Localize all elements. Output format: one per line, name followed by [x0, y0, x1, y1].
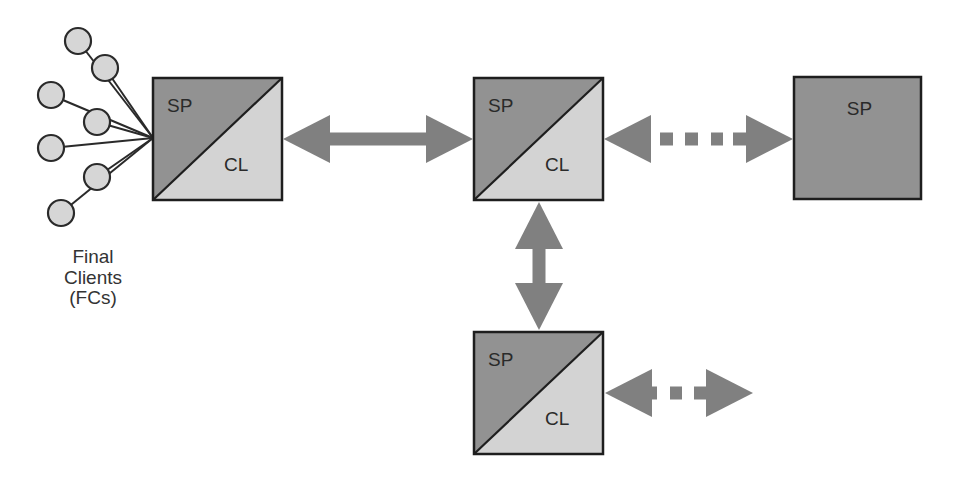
sp-label: SP — [488, 95, 513, 116]
cl-label: CL — [545, 154, 569, 175]
arrowhead-start — [604, 115, 651, 163]
final-client-node — [84, 109, 110, 135]
arrow-dash — [694, 387, 707, 400]
arrow-dash — [733, 133, 747, 146]
arrow-dash — [685, 133, 698, 146]
final-client-node — [48, 200, 74, 226]
arrow-dash — [651, 387, 657, 400]
arrow-shaft — [329, 133, 427, 146]
network-diagram: SPCLSPCLSPSPCL — [0, 0, 957, 478]
arrowhead-end — [426, 115, 473, 163]
cl-label: CL — [224, 154, 248, 175]
arrowhead-end — [706, 369, 753, 417]
arrowhead-end — [515, 283, 563, 330]
node-2: SPCL — [474, 78, 603, 200]
diagram-canvas: SPCLSPCLSPSPCL Final Clients (FCs) — [0, 0, 957, 478]
arrow-dash — [660, 133, 673, 146]
final-client-nodes — [38, 28, 118, 226]
arrowhead-start — [515, 202, 563, 249]
cl-label: CL — [545, 408, 569, 429]
arrow-dash — [711, 133, 723, 146]
final-client-node — [84, 164, 110, 190]
sp-label: SP — [488, 349, 513, 370]
node-3: SP — [794, 77, 921, 199]
final-client-node — [38, 82, 64, 108]
final-client-node — [38, 135, 64, 161]
arrowhead-start — [283, 115, 330, 163]
sp-region — [794, 77, 921, 199]
arrow-node1-node2 — [283, 115, 473, 163]
fc-label-line-3: (FCs) — [43, 288, 143, 309]
final-client-node — [92, 55, 118, 81]
fc-label-line-1: Final — [43, 247, 143, 268]
arrow-dash — [670, 387, 682, 400]
sp-label: SP — [847, 98, 872, 119]
arrowhead-end — [746, 115, 793, 163]
final-clients-label: Final Clients (FCs) — [43, 247, 143, 309]
arrowhead-start — [605, 369, 652, 417]
node-1: SPCL — [153, 78, 282, 200]
node-4: SPCL — [474, 332, 603, 454]
client-link-line — [51, 138, 153, 148]
arrow-shaft — [533, 248, 546, 284]
fc-label-line-2: Clients — [43, 268, 143, 289]
arrow-node2-node4 — [515, 202, 563, 330]
sp-label: SP — [167, 95, 192, 116]
arrow-node4-out — [605, 369, 753, 417]
final-client-node — [65, 28, 91, 54]
arrow-node2-node3 — [604, 115, 793, 163]
